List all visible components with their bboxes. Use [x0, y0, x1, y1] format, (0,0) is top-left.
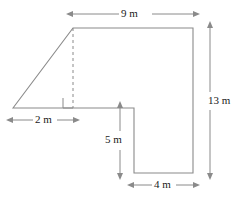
geometry-figure [0, 0, 238, 199]
dimension-label-notch-left: 5 m [103, 134, 124, 145]
dimension-label-top: 9 m [119, 8, 140, 19]
shape-outline [13, 28, 193, 173]
dimension-label-right: 13 m [206, 95, 232, 106]
dimension-label-bottom: 4 m [152, 179, 173, 190]
diagram-canvas: 9 m 2 m 13 m 5 m 4 m [0, 0, 238, 199]
dimension-label-base-left: 2 m [33, 114, 54, 125]
right-angle-icon [63, 98, 73, 108]
